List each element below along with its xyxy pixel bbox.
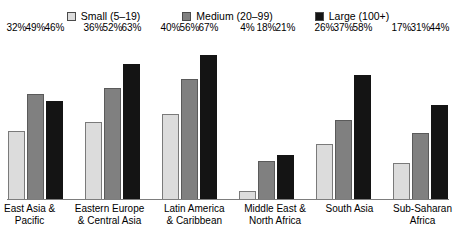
bar-medium[interactable] <box>412 133 429 200</box>
bar-group: 26%37%58% <box>316 34 371 200</box>
category-label-line: Latin America <box>164 203 225 215</box>
bar-group: 36%52%63% <box>85 34 140 200</box>
bar-wrapper: 40% <box>162 34 179 200</box>
category-label: Latin America& Caribbean <box>164 203 225 243</box>
category-label-line: North Africa <box>244 215 306 227</box>
category-label-line: Eastern Europe <box>75 203 145 215</box>
bar-medium[interactable] <box>181 79 198 200</box>
bar-small[interactable] <box>162 114 179 200</box>
category-label: Eastern Europe& Central Asia <box>75 203 145 243</box>
category-label: South Asia <box>326 203 374 243</box>
bar-wrapper: 21% <box>277 34 294 200</box>
bar-wrapper: 31% <box>412 34 429 200</box>
x-axis-line <box>7 199 449 200</box>
category-label-line: Sub-Saharan <box>393 203 452 215</box>
bar-small[interactable] <box>8 131 25 200</box>
bar-wrapper: 46% <box>46 34 63 200</box>
bar-small[interactable] <box>316 144 333 200</box>
bar-group: 4%18%21% <box>239 34 294 200</box>
bar-wrapper: 56% <box>181 34 198 200</box>
legend-swatch-medium-icon <box>182 12 191 21</box>
bar-value-label: 18% <box>256 22 276 33</box>
category-label-line: Pacific <box>4 215 55 227</box>
plot-area: 32%49%46%36%52%63%40%56%67%4%18%21%26%37… <box>0 34 456 200</box>
bar-medium[interactable] <box>335 120 352 200</box>
bar-value-label: 36% <box>83 22 103 33</box>
bar-wrapper: 18% <box>258 34 275 200</box>
bar-value-label: 21% <box>275 22 295 33</box>
bar-wrapper: 63% <box>123 34 140 200</box>
bar-large[interactable] <box>200 55 217 200</box>
bar-value-label: 49% <box>25 22 45 33</box>
category-label-line: & Central Asia <box>75 215 145 227</box>
bar-value-label: 56% <box>179 22 199 33</box>
bar-wrapper: 4% <box>239 34 256 200</box>
bar-large[interactable] <box>46 101 63 200</box>
bar-group: 32%49%46% <box>8 34 63 200</box>
bar-small[interactable] <box>393 163 410 200</box>
bar-wrapper: 44% <box>431 34 448 200</box>
category-label: East Asia &Pacific <box>4 203 55 243</box>
bar-value-label: 4% <box>240 22 254 33</box>
bar-value-label: 37% <box>333 22 353 33</box>
bar-value-label: 40% <box>160 22 180 33</box>
bar-large[interactable] <box>431 105 448 200</box>
bar-value-label: 58% <box>352 22 372 33</box>
bar-value-label: 17% <box>391 22 411 33</box>
chart-legend: Small (5–19) Medium (20–99) Large (100+) <box>0 11 456 22</box>
bar-wrapper: 49% <box>27 34 44 200</box>
bar-value-label: 67% <box>198 22 218 33</box>
bar-wrapper: 52% <box>104 34 121 200</box>
category-label: Sub-SaharanAfrica <box>393 203 452 243</box>
x-axis-category-labels: East Asia &PacificEastern Europe& Centra… <box>0 203 456 243</box>
bar-value-label: 26% <box>314 22 334 33</box>
legend-label-large: Large (100+) <box>329 11 389 22</box>
bar-wrapper: 36% <box>85 34 102 200</box>
bar-small[interactable] <box>85 122 102 200</box>
bar-value-label: 31% <box>410 22 430 33</box>
category-label: Middle East &North Africa <box>244 203 306 243</box>
category-label-line: Africa <box>393 215 452 227</box>
bar-value-label: 52% <box>102 22 122 33</box>
legend-item-small[interactable]: Small (5–19) <box>67 11 141 22</box>
bar-large[interactable] <box>354 75 371 200</box>
grouped-bar-chart: Small (5–19) Medium (20–99) Large (100+)… <box>0 0 456 243</box>
bar-wrapper: 32% <box>8 34 25 200</box>
bar-medium[interactable] <box>104 88 121 200</box>
category-label-line: South Asia <box>326 203 374 215</box>
bar-large[interactable] <box>277 155 294 200</box>
legend-swatch-small-icon <box>67 12 76 21</box>
bar-medium[interactable] <box>258 161 275 200</box>
legend-swatch-large-icon <box>315 12 324 21</box>
legend-label-small: Small (5–19) <box>81 11 141 22</box>
bar-value-label: 46% <box>44 22 64 33</box>
bar-wrapper: 17% <box>393 34 410 200</box>
legend-item-large[interactable]: Large (100+) <box>315 11 389 22</box>
legend-label-medium: Medium (20–99) <box>196 11 272 22</box>
bar-wrapper: 26% <box>316 34 333 200</box>
category-label-line: East Asia & <box>4 203 55 215</box>
legend-item-medium[interactable]: Medium (20–99) <box>182 11 272 22</box>
bar-group: 40%56%67% <box>162 34 217 200</box>
category-label-line: Middle East & <box>244 203 306 215</box>
bar-medium[interactable] <box>27 94 44 200</box>
bar-value-label: 32% <box>6 22 26 33</box>
bar-group: 17%31%44% <box>393 34 448 200</box>
bar-value-label: 63% <box>121 22 141 33</box>
bar-wrapper: 58% <box>354 34 371 200</box>
bar-large[interactable] <box>123 64 140 200</box>
bar-wrapper: 37% <box>335 34 352 200</box>
bar-wrapper: 67% <box>200 34 217 200</box>
bar-value-label: 44% <box>429 22 449 33</box>
category-label-line: & Caribbean <box>164 215 225 227</box>
